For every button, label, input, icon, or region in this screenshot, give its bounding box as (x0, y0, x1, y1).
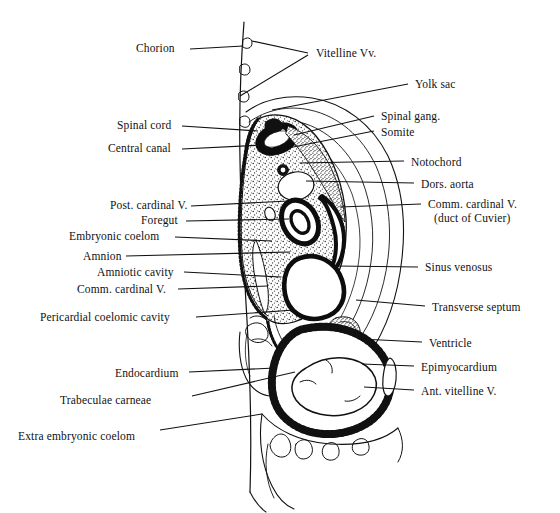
leader2-vitelline-vv (240, 55, 308, 96)
label-chorion: Chorion (136, 42, 175, 55)
label-trabeculae-carneae: Trabeculae carneae (60, 394, 151, 407)
leader-transverse-septum (356, 300, 425, 306)
label-embryonic-coelom: Embryonic coelom (69, 230, 159, 243)
label-yolk-sac: Yolk sac (415, 78, 456, 91)
leader-sinus-venosus (336, 266, 418, 267)
pericardial-fold (246, 323, 268, 343)
leader-vitelline-vv (252, 41, 308, 53)
leader-comm-cardinal-v-right (340, 204, 421, 207)
label-comm-cardinal-v-right: Comm. cardinal V. (428, 198, 517, 211)
figure-canvas: ChorionSpinal cordCentral canalPost. car… (0, 0, 560, 513)
label-ant-vitelline-v: Ant. vitelline V. (421, 385, 497, 398)
label-duct-of-cuvier: (duct of Cuvier) (434, 212, 511, 225)
label-central-canal: Central canal (108, 142, 171, 155)
label-amniotic-cavity: Amniotic cavity (97, 266, 174, 279)
label-amnion: Amnion (83, 250, 122, 263)
label-transverse-septum: Transverse septum (432, 301, 521, 314)
label-ventricle: Ventricle (429, 337, 472, 350)
leader-extra-embryonic-coelom (160, 414, 262, 430)
label-dors-aorta: Dors. aorta (421, 178, 474, 191)
label-pericardial-coelomic: Pericardial coelomic cavity (40, 311, 170, 324)
sinus-venosus (284, 256, 344, 319)
label-spinal-gang: Spinal gang. (381, 110, 440, 123)
label-somite: Somite (381, 126, 415, 139)
label-sinus-venosus: Sinus venosus (425, 261, 492, 274)
label-extra-embryonic-coelom: Extra embryonic coelom (18, 430, 135, 443)
label-epimyocardium: Epimyocardium (421, 361, 497, 374)
leader-endocardium (189, 368, 275, 372)
label-vitelline-vv: Vitelline Vv. (316, 47, 376, 60)
label-post-cardinal-v: Post. cardinal V. (110, 199, 188, 212)
leader-chorion (190, 46, 243, 49)
spinal-ganglion (265, 119, 283, 132)
label-foregut: Foregut (141, 214, 178, 227)
label-notochord: Notochord (411, 156, 462, 169)
label-comm-cardinal-v-left: Comm. cardinal V. (77, 283, 166, 296)
label-endocardium: Endocardium (115, 367, 179, 380)
label-spinal-cord: Spinal cord (117, 119, 171, 132)
